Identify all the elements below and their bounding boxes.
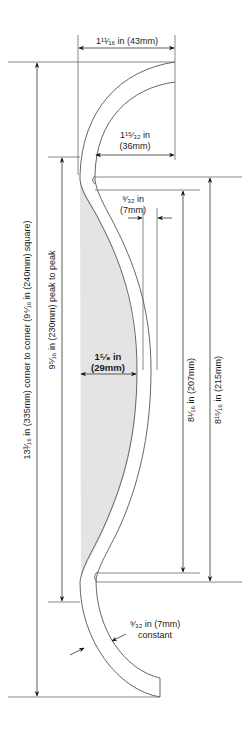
thickness-arrow-out: [70, 648, 84, 655]
height-207-label: 8¹⁄₁₆ in (207mm): [186, 358, 196, 422]
peak-to-peak-label: 9⁵⁄₁₆ in (230mm) peak to peak: [47, 250, 57, 369]
shaded-region: [80, 178, 137, 578]
inner-width-label-1: 1¹⁵⁄₃₂ in: [120, 130, 150, 140]
top-width-label: 1¹¹⁄₁₆ in (43mm): [96, 36, 158, 46]
corner-label: 13³⁄₁₆ in (335mm) corner to corner (9⁴⁄₁…: [22, 221, 32, 460]
depth-label-2: (29mm): [91, 362, 125, 373]
gap-label-2: (7mm): [120, 205, 146, 215]
thickness-arrow-in: [112, 634, 126, 641]
thickness-label-1: ⁹⁄₃₂ in (7mm): [130, 619, 181, 629]
gap-label-1: ⁹⁄₃₂ in: [122, 194, 144, 204]
profile-diagram: 1¹¹⁄₁₆ in (43mm) 1¹⁵⁄₃₂ in (36mm) ⁹⁄₃₂ i…: [0, 0, 249, 731]
inner-width-label-2: (36mm): [120, 141, 151, 151]
thickness-label-2: constant: [138, 630, 173, 640]
depth-label-1: 1⁵⁄₈ in: [95, 351, 122, 362]
height-215-label: 8¹⁵⁄₁₆ in (215mm): [213, 356, 223, 424]
